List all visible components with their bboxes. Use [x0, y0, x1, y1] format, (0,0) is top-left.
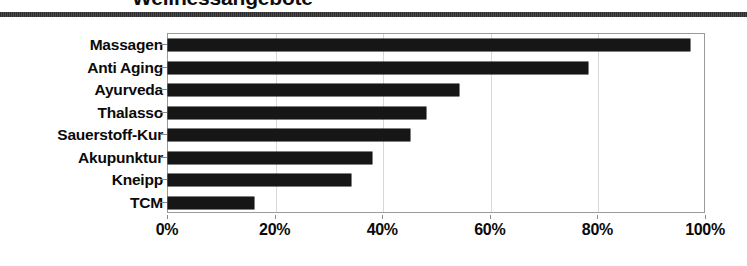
x-axis-label: 80%	[582, 221, 613, 239]
category-label: Kneipp	[3, 171, 163, 189]
y-axis-tick	[160, 179, 167, 180]
x-axis-tick	[705, 215, 706, 219]
y-axis-tick	[160, 157, 167, 158]
bar-tcm	[168, 197, 254, 209]
bar-row	[168, 107, 706, 119]
x-axis-tick	[382, 215, 383, 219]
y-axis-tick	[160, 44, 167, 45]
bar-akupunktur	[168, 152, 372, 164]
bar-row	[168, 197, 706, 209]
bar-kneipp	[168, 174, 351, 186]
bar-massagen	[168, 39, 690, 51]
category-axis: MassagenAnti AgingAyurvedaThalassoSauers…	[0, 33, 163, 213]
x-axis-tick	[167, 215, 168, 219]
category-label: Massagen	[3, 36, 163, 54]
category-label: Ayurveda	[3, 81, 163, 99]
bar-ayurveda	[168, 84, 459, 96]
bar-row	[168, 62, 706, 74]
x-axis-label: 60%	[474, 221, 505, 239]
x-axis-tick	[597, 215, 598, 219]
x-axis-tick	[490, 215, 491, 219]
x-axis-label: 0%	[156, 221, 179, 239]
y-axis-tick	[160, 112, 167, 113]
chart-title-clip: Wellnessangebote	[0, 0, 747, 11]
bar-row	[168, 39, 706, 51]
y-axis-tick	[160, 202, 167, 203]
bar-row	[168, 129, 706, 141]
x-axis-label: 100%	[685, 221, 725, 239]
value-axis: 0%20%40%60%80%100%	[0, 215, 747, 245]
y-axis-tick	[160, 89, 167, 90]
bar-thalasso	[168, 107, 426, 119]
x-axis-label: 20%	[259, 221, 290, 239]
bar-anti-aging	[168, 62, 588, 74]
x-axis-tick	[275, 215, 276, 219]
bar-row	[168, 174, 706, 186]
y-axis-tick	[160, 67, 167, 68]
category-label: TCM	[3, 194, 163, 212]
page-title: Wellnessangebote	[132, 0, 313, 10]
category-label: Sauerstoff-Kur	[3, 126, 163, 144]
category-label: Thalasso	[3, 104, 163, 122]
category-label: Akupunktur	[3, 149, 163, 167]
bar-row	[168, 84, 706, 96]
category-label: Anti Aging	[3, 59, 163, 77]
plot-area	[167, 33, 705, 213]
y-axis-tick	[160, 134, 167, 135]
bar-chart: MassagenAnti AgingAyurvedaThalassoSauers…	[0, 17, 747, 266]
x-axis-label: 40%	[367, 221, 398, 239]
bar-sauerstoff-kur	[168, 129, 410, 141]
bar-row	[168, 152, 706, 164]
